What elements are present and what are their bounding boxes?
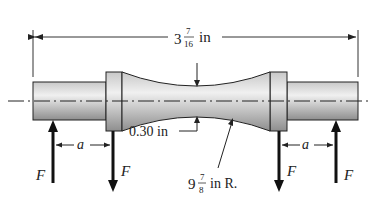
- overall-length-dimension: 3 7 16 in: [33, 26, 358, 77]
- specimen-diagram: 3 7 16 in 0.30 in 9 7 8 in R.: [0, 0, 385, 204]
- radius-callout: 9 7 8 in R.: [188, 118, 237, 195]
- svg-text:F: F: [35, 167, 46, 183]
- svg-text:a: a: [77, 137, 84, 152]
- svg-text:F: F: [343, 167, 354, 183]
- arrow-down-icon: [108, 180, 118, 192]
- svg-text:9: 9: [188, 176, 196, 192]
- svg-text:8: 8: [199, 185, 204, 195]
- spacing-dimensions: a a: [56, 137, 333, 152]
- arrow-down-icon: [274, 180, 284, 192]
- svg-text:in R.: in R.: [210, 176, 237, 191]
- svg-text:F: F: [286, 163, 297, 179]
- svg-text:a: a: [302, 137, 309, 152]
- length-whole: 3: [174, 31, 182, 47]
- svg-text:7: 7: [200, 172, 205, 182]
- arrow-up-icon: [331, 120, 341, 132]
- length-denominator: 16: [184, 39, 194, 49]
- length-numerator: 7: [186, 26, 191, 36]
- svg-text:F: F: [120, 163, 131, 179]
- arrow-up-icon: [48, 120, 58, 132]
- neck-diameter-label: 0.30 in: [129, 124, 168, 139]
- length-unit: in: [199, 29, 211, 45]
